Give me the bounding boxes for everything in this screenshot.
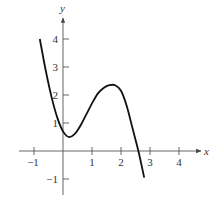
x-tick-label: 2: [118, 156, 124, 168]
x-axis-label: x: [203, 145, 209, 157]
x-tick-label: 4: [176, 156, 182, 168]
x-tick-label: −1: [27, 156, 39, 168]
y-tick-label: 3: [53, 61, 59, 73]
chart: −11234−11234 x y: [0, 0, 217, 199]
x-tick-label: 3: [147, 156, 153, 168]
y-tick-label: 4: [53, 33, 59, 45]
y-tick-label: −1: [46, 173, 58, 185]
y-axis-label: y: [59, 2, 65, 14]
axes: [19, 18, 201, 195]
ticks: −11234−11234: [27, 33, 182, 185]
y-tick-label: 2: [53, 89, 59, 101]
x-tick-label: 1: [89, 156, 95, 168]
